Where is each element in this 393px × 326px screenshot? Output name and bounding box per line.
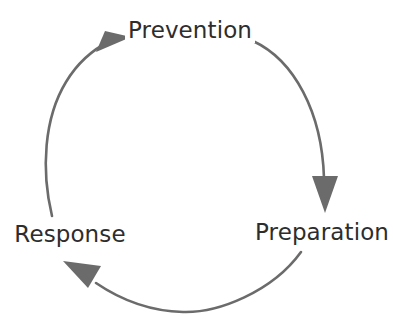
stage-label-prevention: Prevention bbox=[125, 18, 255, 43]
stage-label-preparation: Preparation bbox=[252, 220, 392, 245]
arc-prevention-to-preparation bbox=[253, 41, 324, 178]
stage-label-response: Response bbox=[11, 222, 128, 247]
arrowhead-preparation-icon bbox=[312, 176, 338, 213]
arc-preparation-to-response bbox=[96, 252, 301, 312]
arrow-preparation-to-response bbox=[63, 252, 301, 312]
cycle-diagram: Prevention Preparation Response bbox=[0, 0, 393, 326]
arrow-response-to-prevention bbox=[46, 31, 131, 216]
cycle-arcs-svg bbox=[0, 0, 393, 326]
arrow-prevention-to-preparation bbox=[253, 41, 338, 213]
arc-response-to-prevention bbox=[46, 41, 110, 216]
